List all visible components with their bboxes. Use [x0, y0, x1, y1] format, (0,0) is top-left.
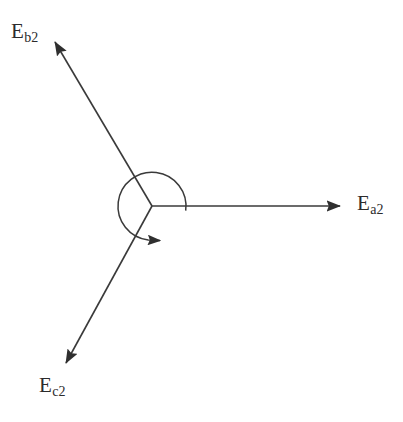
phasor-diagram: Eb2 Ea2 Ec2 — [0, 0, 403, 422]
vector-line-ec2 — [66, 206, 152, 363]
vector-symbol-ec2: E — [39, 373, 52, 397]
vector-subscript-eb2: b2 — [24, 30, 38, 45]
vector-label-ea2: Ea2 — [357, 193, 384, 217]
vector-symbol-eb2: E — [11, 19, 24, 43]
vector-label-eb2: Eb2 — [11, 21, 39, 45]
vector-line-eb2 — [55, 42, 152, 206]
vector-subscript-ec2: c2 — [52, 384, 66, 399]
phasor-svg-canvas — [0, 0, 403, 422]
vector-subscript-ea2: a2 — [370, 202, 384, 217]
vector-symbol-ea2: E — [357, 191, 370, 215]
vector-label-ec2: Ec2 — [39, 375, 66, 399]
